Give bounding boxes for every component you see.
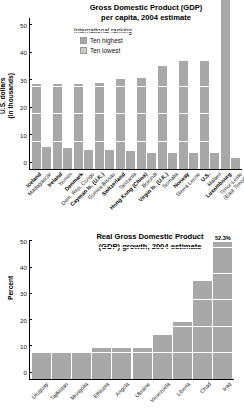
infographic-page: Gross Domestic Product (GDP) per capita,… xyxy=(0,0,244,420)
chart-gdp-growth: Real Gross Domestic Product (GDP) growth… xyxy=(0,218,244,420)
bar-tanzania[interactable] xyxy=(126,151,135,169)
y-axis-tick-50: 50 xyxy=(20,21,30,28)
tick-mark xyxy=(30,52,32,53)
bar-norway[interactable] xyxy=(179,61,188,169)
y-axis-tick-0: 0 xyxy=(24,159,30,166)
y-axis-tick-30: 30 xyxy=(20,290,30,297)
bar-madagascar[interactable] xyxy=(42,147,51,169)
x-axis-label-line: Venezuela xyxy=(149,381,171,403)
x-axis-label-venezuela: Venezuela xyxy=(149,381,171,403)
y-axis-title-percent: Percent xyxy=(7,276,14,300)
bar-u-s[interactable] xyxy=(200,61,209,169)
bar-yemen[interactable] xyxy=(63,148,72,169)
y-axis-tick-10: 10 xyxy=(20,342,30,349)
y-axis-title-line2: (in thousands) xyxy=(7,65,15,127)
bar-ethiopia[interactable] xyxy=(92,348,111,379)
bar-uruguay[interactable] xyxy=(32,353,51,379)
bar-denmark[interactable] xyxy=(74,84,83,169)
bar-ukraine[interactable] xyxy=(133,348,152,379)
bar-liberia[interactable] xyxy=(173,322,192,379)
bar-chad[interactable] xyxy=(193,281,212,379)
y-axis-title-line1: U.S. dollars xyxy=(0,78,6,114)
bar-cayman-is-u-k[interactable] xyxy=(95,83,104,169)
x-axis-label-line: Mongolia xyxy=(70,381,90,401)
x-axis-label-line: Iraq xyxy=(222,381,233,392)
y-axis-tick-40: 40 xyxy=(20,49,30,56)
bar-value-label: 52.3% xyxy=(215,235,231,241)
tick-mark xyxy=(30,240,32,241)
bar-iceland[interactable] xyxy=(32,84,41,169)
x-axis-label-line: Ethiopia xyxy=(92,381,110,399)
bar-dem-rep-congo[interactable] xyxy=(84,150,93,169)
bar-ireland[interactable] xyxy=(53,84,62,169)
y-axis-tick-10: 10 xyxy=(20,131,30,138)
x-axis-label-line: Tajikistan xyxy=(49,381,69,401)
bar-malawi[interactable] xyxy=(210,153,219,169)
bar-angola[interactable] xyxy=(112,348,131,379)
bar-timor-leste-east-timor[interactable] xyxy=(231,158,240,169)
x-axis-label-line: Liberia xyxy=(176,381,192,397)
x-axis-label-line: Chad xyxy=(199,381,213,395)
bar-guinea-bissau[interactable] xyxy=(105,150,114,169)
x-axis-label-ukraine: Ukraine xyxy=(133,381,151,399)
plot-area-gdp-growth: 52.3% UruguayTajikistanMongoliaEthiopiaA… xyxy=(29,240,234,380)
bar-sierra-leone[interactable] xyxy=(189,153,198,169)
y-axis-tick-30: 30 xyxy=(20,76,30,83)
bar-iraq[interactable]: 52.3% xyxy=(213,242,232,379)
tick-mark xyxy=(30,372,32,373)
bar-virgin-is-u-k[interactable] xyxy=(158,66,167,169)
chart-title-line1: Gross Domestic Product (GDP) xyxy=(66,3,226,13)
tick-mark xyxy=(30,293,32,294)
y-axis-title-gdp-per-capita: U.S. dollars (in thousands) xyxy=(0,65,15,127)
y-axis-tick-40: 40 xyxy=(20,264,30,271)
x-axis-label-line: Uruguay xyxy=(30,381,49,400)
x-axis-label-mongolia: Mongolia xyxy=(70,381,90,401)
y-axis-tick-20: 20 xyxy=(20,316,30,323)
tick-mark xyxy=(30,345,32,346)
y-axis-tick-20: 20 xyxy=(20,104,30,111)
tick-mark xyxy=(30,24,32,25)
y-axis-title-gdp-growth: Percent xyxy=(7,268,15,308)
bar-venezuela[interactable] xyxy=(153,335,172,379)
x-axis-label-uruguay: Uruguay xyxy=(30,381,49,400)
bar-luxembourg[interactable] xyxy=(221,0,230,169)
x-axis-label-iraq: Iraq xyxy=(222,381,233,392)
tick-mark xyxy=(30,267,32,268)
bar-burundi[interactable] xyxy=(147,153,156,169)
x-axis-label-liberia: Liberia xyxy=(176,381,192,397)
bar-tajikistan[interactable] xyxy=(52,352,71,379)
tick-mark xyxy=(30,79,32,80)
tick-mark xyxy=(30,319,32,320)
x-axis-label-line: Angola xyxy=(114,381,130,397)
bar-somalia[interactable] xyxy=(168,153,177,169)
y-axis-tick-50: 50 xyxy=(20,237,30,244)
chart-gdp-per-capita: Gross Domestic Product (GDP) per capita,… xyxy=(0,0,244,218)
x-axis-label-tajikistan: Tajikistan xyxy=(49,381,69,401)
y-axis-tick-0: 0 xyxy=(24,369,30,376)
x-axis-label-angola: Angola xyxy=(114,381,130,397)
tick-mark xyxy=(30,107,32,108)
bar-group-gdp-growth: 52.3% xyxy=(30,240,234,379)
bar-switzerland[interactable] xyxy=(116,79,125,169)
x-axis-label-chad: Chad xyxy=(199,381,213,395)
plot-area-gdp-per-capita: IcelandMadagascarIrelandYemenDenmarkDem.… xyxy=(29,18,242,170)
x-axis-label-ethiopia: Ethiopia xyxy=(92,381,110,399)
x-axis-label-line: Ukraine xyxy=(133,381,151,399)
bar-group-gdp-per-capita xyxy=(30,18,242,169)
tick-mark xyxy=(30,162,32,163)
bar-hong-kong-china[interactable] xyxy=(137,78,146,169)
tick-mark xyxy=(30,134,32,135)
bar-mongolia[interactable] xyxy=(72,352,91,379)
